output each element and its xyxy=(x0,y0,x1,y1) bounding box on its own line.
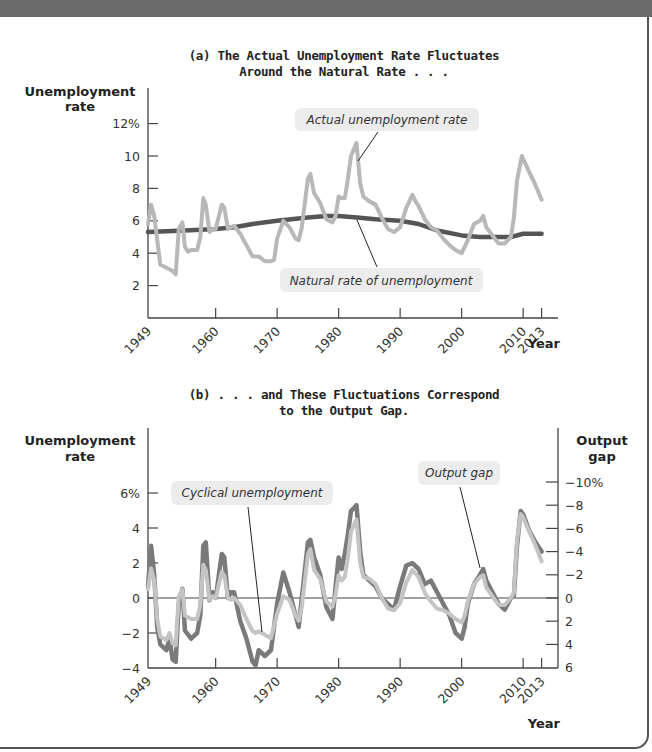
panel-a-title-line2: Around the Natural Rate . . . xyxy=(239,64,449,79)
panel-b-ylabel-line2: rate xyxy=(65,449,95,464)
panel-a-title-line1: (a) The Actual Unemployment Rate Fluctua… xyxy=(189,48,500,63)
y2-tick-label: −2 xyxy=(565,567,583,582)
panel-a-ylabel-line1: Unemployment xyxy=(24,84,135,99)
x-tick-label: 1949 xyxy=(121,673,154,706)
y-tick-label: 4 xyxy=(132,521,140,536)
panel-b-y2label-line1: Output xyxy=(576,433,627,448)
panel-a: (a) The Actual Unemployment Rate Fluctua… xyxy=(24,48,560,357)
figure-canvas: (a) The Actual Unemployment Rate Fluctua… xyxy=(0,0,652,752)
y2-tick-label: −4 xyxy=(565,544,583,559)
callout-output-gap: Output gap xyxy=(418,461,500,568)
panel-b: (b) . . . and These Fluctuations Corresp… xyxy=(24,387,627,731)
y-tick-label: 12% xyxy=(112,116,140,131)
y2-tick-label: −6 xyxy=(565,521,583,536)
x-tick-label: 2000 xyxy=(435,323,468,356)
y2-tick-label: −10% xyxy=(565,475,603,490)
x-tick-label: 1960 xyxy=(189,673,222,706)
panel-b-ylabel-line1: Unemployment xyxy=(24,433,135,448)
y-tick-label: 10 xyxy=(124,149,140,164)
label-output-gap: Output gap xyxy=(425,466,493,480)
y2-tick-label: 0 xyxy=(565,591,573,606)
y-tick-label: 2 xyxy=(132,556,140,571)
y-tick-label: 6 xyxy=(132,213,140,228)
x-tick-label: 1990 xyxy=(373,673,406,706)
x-tick-label: 1980 xyxy=(312,323,345,356)
y2-tick-label: −8 xyxy=(565,498,583,513)
y-tick-label: −2 xyxy=(122,626,140,641)
y-tick-label: −4 xyxy=(122,661,140,676)
x-tick-label: 1960 xyxy=(189,323,222,356)
y-tick-label: 8 xyxy=(132,181,140,196)
x-tick-label: 1990 xyxy=(373,323,406,356)
y-tick-label: 4 xyxy=(132,246,140,261)
x-tick-label: 1970 xyxy=(250,673,283,706)
panel-a-xlabel: Year xyxy=(527,336,561,351)
label-actual-unemployment: Actual unemployment rate xyxy=(306,113,468,127)
panel-b-title-line2: to the Output Gap. xyxy=(279,403,409,418)
panel-a-plot xyxy=(148,143,542,274)
panel-b-plot xyxy=(148,505,542,665)
y-tick-label: 6% xyxy=(120,486,140,501)
cyclical-unemployment-line xyxy=(148,514,542,645)
y-tick-label: 0 xyxy=(132,591,140,606)
x-tick-label: 1980 xyxy=(312,673,345,706)
label-natural-rate: Natural rate of unemployment xyxy=(290,274,474,288)
y-tick-label: 2 xyxy=(132,278,140,293)
callout-natural-rate: Natural rate of unemployment xyxy=(280,220,483,292)
panel-b-title-line1: (b) . . . and These Fluctuations Corresp… xyxy=(189,387,500,402)
actual-unemployment-line xyxy=(148,143,542,274)
y2-tick-label: 4 xyxy=(565,637,573,652)
y2-tick-label: 6 xyxy=(565,660,573,675)
y2-tick-label: 2 xyxy=(565,614,573,629)
panel-b-xlabel: Year xyxy=(527,716,561,731)
panel-a-ylabel-line2: rate xyxy=(65,99,95,114)
x-tick-label: 2000 xyxy=(435,673,468,706)
callout-actual-unemployment: Actual unemployment rate xyxy=(295,108,479,161)
x-tick-label: 1970 xyxy=(250,323,283,356)
label-cyclical-unemployment: Cyclical unemployment xyxy=(182,486,324,500)
x-tick-label: 1949 xyxy=(121,323,154,356)
panel-b-y2label-line2: gap xyxy=(588,449,615,464)
